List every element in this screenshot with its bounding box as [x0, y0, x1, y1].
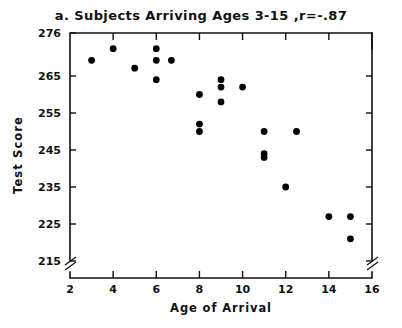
data-point [218, 99, 225, 106]
y-tick-label-245: 245 [38, 144, 61, 157]
y-tick-label-276: 276 [38, 27, 61, 40]
data-point [131, 65, 138, 72]
data-point [239, 84, 246, 91]
plot-frame-top-left [70, 33, 372, 261]
plot-frame-bottom [70, 272, 372, 278]
data-point [218, 76, 225, 83]
y-axis-ticks [70, 33, 372, 261]
x-axis-ticks [113, 33, 329, 278]
data-point [196, 128, 203, 135]
data-point [282, 184, 289, 191]
x-tick-label-2: 2 [66, 283, 74, 296]
data-point [261, 154, 268, 161]
data-point [325, 213, 332, 220]
y-tick-label-225: 225 [38, 218, 61, 231]
data-point [347, 235, 354, 242]
y-axis-tick-labels: 215225235245255265276 [38, 27, 61, 268]
x-axis-label: Age of Arrival [170, 301, 272, 315]
y-tick-label-265: 265 [38, 70, 61, 83]
x-axis-tick-labels: 246810121416 [66, 283, 380, 296]
data-point [196, 121, 203, 128]
data-point [196, 91, 203, 98]
y-tick-label-235: 235 [38, 181, 61, 194]
y-tick-label-215: 215 [38, 255, 61, 268]
data-point [88, 57, 95, 64]
data-point [347, 213, 354, 220]
x-tick-label-12: 12 [278, 283, 293, 296]
y-axis-label: Test Score [11, 116, 25, 194]
data-point [168, 57, 175, 64]
x-tick-label-8: 8 [196, 283, 204, 296]
data-point [153, 57, 160, 64]
data-point [261, 128, 268, 135]
x-tick-label-14: 14 [321, 283, 337, 296]
y-tick-label-255: 255 [38, 107, 61, 120]
x-tick-label-6: 6 [152, 283, 160, 296]
data-point [218, 84, 225, 91]
data-point [110, 45, 117, 52]
data-point [293, 128, 300, 135]
x-tick-label-4: 4 [109, 283, 117, 296]
data-point [153, 76, 160, 83]
x-tick-label-16: 16 [364, 283, 380, 296]
data-points-group [88, 45, 354, 242]
data-point [153, 45, 160, 52]
plot-area-svg: 215225235245255265276 246810121416 Test … [0, 0, 402, 328]
x-tick-label-10: 10 [235, 283, 251, 296]
scatter-plot-figure: a. Subjects Arriving Ages 3-15 ,r=-.87 2… [0, 0, 402, 328]
